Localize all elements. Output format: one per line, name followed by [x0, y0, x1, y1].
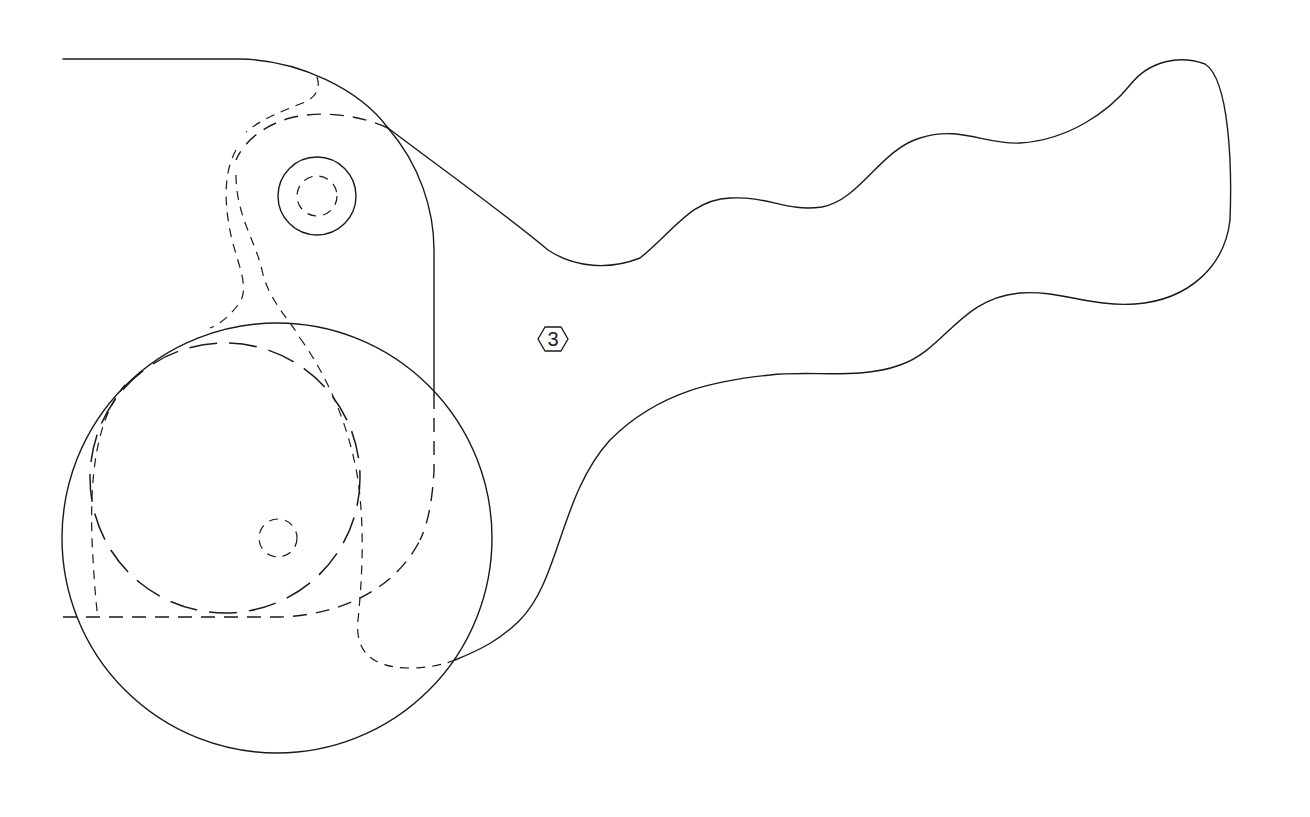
technical-drawing: 3 [0, 0, 1310, 817]
handle-outline [388, 60, 1231, 660]
hub-hidden-lines [63, 338, 455, 668]
pivot-outer-circle [278, 157, 356, 235]
reference-label-part-3: 3 [538, 327, 568, 351]
center-hole-hidden-circle [259, 519, 297, 557]
part-number: 3 [547, 328, 558, 350]
pivot-inner-hidden-circle [297, 176, 337, 216]
hub-circle [62, 323, 492, 753]
pivot-boss [278, 157, 356, 235]
upper-hidden-lines [210, 77, 388, 338]
inner-bore-hidden-circle [90, 343, 360, 613]
